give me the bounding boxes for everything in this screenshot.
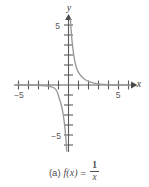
y-tick-label-positive-5: 5 — [55, 21, 60, 31]
graph-figure: x y −5 5 5 −5 — [0, 0, 149, 160]
x-axis-label: x — [136, 78, 142, 89]
fraction-denominator: x — [92, 173, 96, 182]
caption-fraction: 1 x — [90, 161, 99, 182]
caption-function-name: f(x) — [64, 167, 78, 178]
fraction-numerator: 1 — [92, 161, 97, 170]
caption-equals: = — [80, 167, 86, 178]
y-tick-label-negative-5: −5 — [51, 131, 61, 141]
y-axis-label: y — [66, 2, 72, 13]
figure-caption: (a) f(x) = 1 x — [0, 157, 149, 187]
caption-index: (a) — [49, 167, 61, 178]
x-tick-label-positive-5: 5 — [116, 90, 121, 100]
curve-branch-positive — [70, 19, 129, 85]
x-tick-label-negative-5: −5 — [14, 90, 24, 100]
